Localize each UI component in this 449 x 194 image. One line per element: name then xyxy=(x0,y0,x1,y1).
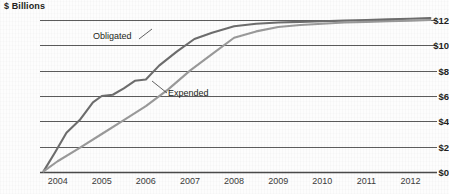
y-tick-label: $8 xyxy=(415,65,449,76)
x-tick-label: 2010 xyxy=(312,176,332,186)
x-tick-label: 2006 xyxy=(136,176,156,186)
y-tick-label: $6 xyxy=(415,91,449,102)
chart-figure: $ Billions Obligated Expended $0$2$4$6$8… xyxy=(0,0,449,194)
x-tick-label: 2012 xyxy=(401,176,421,186)
x-tick-label: 2007 xyxy=(180,176,200,186)
series-lines xyxy=(44,18,431,171)
y-tick-label: $4 xyxy=(415,116,449,127)
leader-line-obligated xyxy=(139,29,152,39)
series-label-expended: Expended xyxy=(168,88,209,98)
y-tick-label: $12 xyxy=(415,15,449,26)
series-label-obligated: Obligated xyxy=(93,31,132,41)
x-tick-label: 2005 xyxy=(92,176,112,186)
x-tick-label: 2004 xyxy=(48,176,68,186)
leader-line-expended xyxy=(152,81,167,93)
x-tick-label: 2008 xyxy=(224,176,244,186)
annotation-leader-lines xyxy=(139,29,167,93)
y-tick-label: $10 xyxy=(415,40,449,51)
plot-area xyxy=(0,0,449,194)
y-tick-label: $2 xyxy=(415,141,449,152)
x-tick-label: 2009 xyxy=(268,176,288,186)
x-tick-label: 2011 xyxy=(357,176,376,186)
series-line-obligated xyxy=(44,18,431,171)
